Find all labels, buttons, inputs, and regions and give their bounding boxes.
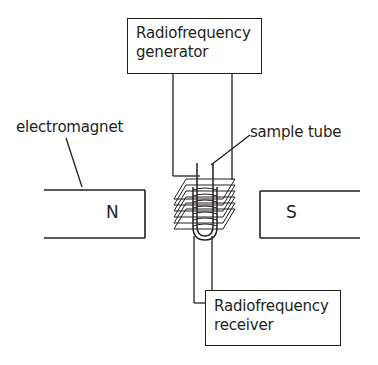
rf-receiver-label-line1: Radiofrequency (214, 297, 340, 316)
north-pole-label: N (106, 202, 119, 222)
rf-receiver-label-line2: receiver (214, 316, 340, 335)
south-magnet-outline (260, 191, 360, 238)
north-magnet-outline (44, 190, 145, 238)
rf-generator-label-line2: generator (136, 43, 261, 62)
south-pole-label: S (286, 202, 297, 222)
rf-receiver-box: Radiofrequency receiver (205, 290, 341, 346)
sample-tube-shape (193, 163, 217, 240)
rf-generator-label-line1: Radiofrequency (136, 24, 261, 43)
generator-leads (173, 73, 232, 180)
nmr-diagram: Radiofrequency generator Radiofrequency … (0, 0, 378, 365)
sample-tube-pointer (211, 135, 250, 165)
coil-planes (174, 179, 235, 229)
rf-generator-box: Radiofrequency generator (127, 18, 262, 74)
electromagnet-pointer (66, 138, 82, 187)
sample-tube-label: sample tube (250, 123, 341, 142)
electromagnet-label: electromagnet (16, 118, 123, 137)
